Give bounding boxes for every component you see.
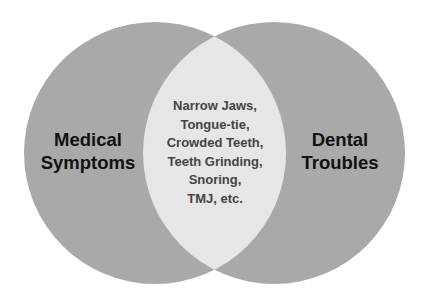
right-label-line-2: Troubles <box>286 151 394 174</box>
left-label-line-1: Medical <box>34 128 142 151</box>
right-circle-label: Dental Troubles <box>286 128 394 174</box>
left-label-line-2: Symptoms <box>34 151 142 174</box>
intersection-text: Narrow Jaws, Tongue-tie, Crowded Teeth, … <box>148 97 282 209</box>
intersection-line-2: Tongue-tie, <box>148 116 282 135</box>
intersection-line-3: Crowded Teeth, <box>148 134 282 153</box>
intersection-line-4: Teeth Grinding, <box>148 153 282 172</box>
left-circle-label: Medical Symptoms <box>34 128 142 174</box>
intersection-line-1: Narrow Jaws, <box>148 97 282 116</box>
intersection-line-5: Snoring, <box>148 171 282 190</box>
right-label-line-1: Dental <box>286 128 394 151</box>
intersection-line-6: TMJ, etc. <box>148 190 282 209</box>
